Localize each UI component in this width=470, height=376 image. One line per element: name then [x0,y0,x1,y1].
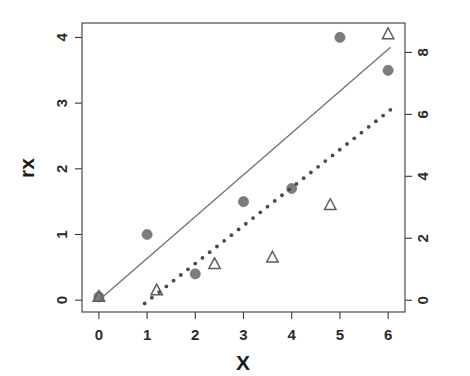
x-tick-label: 1 [143,326,151,343]
dotted-line-dot [222,239,226,243]
dotted-line-dot [295,182,299,186]
plot-canvas: 0123456 01234 02468 X rx [0,0,470,376]
data-point-circle [238,197,248,207]
data-point-circle [142,229,152,239]
dotted-line-dot [360,131,364,135]
dotted-line-dot [352,136,356,140]
dotted-line-dot [266,205,270,209]
dotted-line-dot [331,154,335,158]
y-tick-label-left: 0 [53,296,70,304]
dotted-line-dot [229,233,233,237]
scatter-plot-figure: 0123456 01234 02468 X rx [0,0,470,376]
x-tick-label: 5 [336,326,344,343]
y-tick-label-right: 4 [414,171,431,180]
dotted-line-dot [172,279,176,283]
dotted-line-dot [280,193,284,197]
dotted-line-dot [186,267,190,271]
dotted-line-dot [208,250,212,254]
dotted-line-dot [273,199,277,203]
y-tick-label-right: 6 [414,110,431,118]
y-axis-label: rx [15,158,38,178]
dotted-line-dot [258,210,262,214]
figure-background [0,0,470,376]
dotted-line-dot [251,216,255,220]
dotted-line-dot [179,273,183,277]
y-tick-label-left: 2 [53,165,70,173]
y-tick-label-left: 3 [53,99,70,107]
dotted-line-dot [302,176,306,180]
dotted-line-dot [374,119,378,123]
y-tick-label-right: 0 [414,296,431,304]
dotted-line-dot [309,171,313,175]
dotted-line-dot [316,165,320,169]
y-tick-label-right: 2 [414,234,431,242]
x-tick-label: 4 [288,326,297,343]
dotted-line-dot [193,262,197,266]
y-tick-label-right: 8 [414,48,431,56]
dotted-line-dot [157,290,161,294]
dotted-line-dot [164,284,168,288]
dotted-line-dot [388,108,392,112]
dotted-line-dot [367,125,371,129]
dotted-line-dot [323,159,327,163]
dotted-line-dot [215,245,219,249]
dotted-line-dot [338,148,342,152]
data-point-circle [335,32,345,42]
data-point-circle [383,65,393,75]
x-tick-label: 6 [384,326,392,343]
data-point-circle [190,269,200,279]
x-tick-label: 2 [191,326,199,343]
dotted-line-dot [381,114,385,118]
dotted-line-dot [345,142,349,146]
x-axis-label: X [236,351,250,374]
dotted-line-dot [201,256,205,260]
dotted-line-dot [244,222,248,226]
dotted-line-dot [287,188,291,192]
dotted-line-dot [237,228,241,232]
y-tick-label-left: 4 [53,33,70,42]
dotted-line-dot [150,296,154,300]
dotted-line-dot [143,302,147,306]
y-tick-label-left: 1 [53,230,70,238]
x-tick-label: 0 [95,326,103,343]
x-tick-label: 3 [239,326,247,343]
